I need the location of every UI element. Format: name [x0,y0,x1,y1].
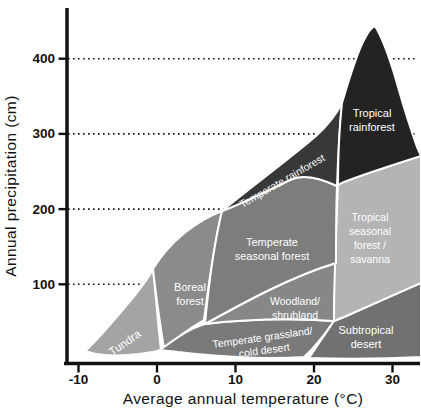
x-tick-label-30: 30 [385,372,400,387]
y-tick-label-200: 200 [32,202,55,217]
y-tick-label-100: 100 [32,277,55,292]
x-tick-label--10: -10 [69,372,89,387]
x-tick-label-10: 10 [228,372,243,387]
x-tick-label-0: 0 [153,372,161,387]
whittaker-biome-chart: TundraBorealforestTemperate grassland/co… [0,0,421,420]
x-tick-label-20: 20 [306,372,321,387]
whittaker-biome-figure: TundraBorealforestTemperate grassland/co… [0,0,421,420]
x-axis-title: Average annual temperature (°C) [123,390,364,407]
y-tick-label-300: 300 [32,126,55,141]
y-tick-label-400: 400 [32,51,55,66]
y-axis-title: Annual precipitation (cm) [2,95,19,276]
